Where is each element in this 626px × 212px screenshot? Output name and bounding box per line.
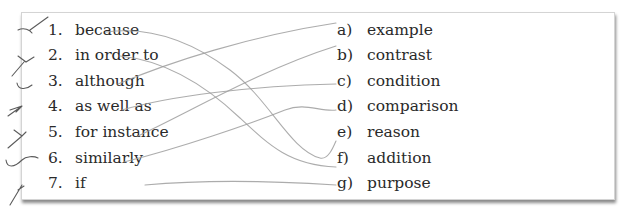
check-mark-icon [6, 157, 38, 166]
check-mark-icon [18, 17, 48, 33]
check-mark-icon [10, 185, 24, 205]
check-mark-icon [8, 130, 26, 148]
check-marks [0, 0, 626, 212]
check-mark-icon [8, 106, 22, 116]
check-mark-icon [12, 56, 34, 76]
check-mark-icon [17, 83, 32, 89]
